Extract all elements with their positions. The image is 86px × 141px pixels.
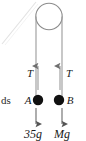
mass-dot-a bbox=[33, 95, 43, 105]
mass-label-a: A bbox=[24, 94, 32, 106]
scan-artifact-diagonal bbox=[2, 2, 38, 45]
cut-text-fragment: ds bbox=[1, 94, 11, 106]
tension-label-right: T bbox=[66, 67, 73, 79]
pulley-diagram-figure: ds T T A B 35g Mg bbox=[0, 0, 86, 141]
weight-label-b: Mg bbox=[53, 127, 70, 141]
weight-label-a: 35g bbox=[23, 127, 42, 141]
mass-label-b: B bbox=[67, 94, 74, 106]
mass-dot-b bbox=[54, 95, 64, 105]
diagram-canvas: ds T T A B 35g Mg bbox=[0, 0, 86, 141]
pulley-icon bbox=[36, 3, 62, 29]
tension-label-left: T bbox=[27, 67, 34, 79]
